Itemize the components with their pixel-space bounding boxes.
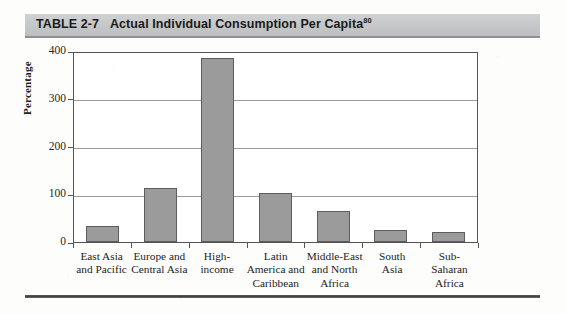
x-axis-label: LatinAmerica andCaribbean <box>246 250 306 296</box>
x-axis-label-line: Middle-East <box>307 250 363 263</box>
x-axis-label-line: and North <box>307 263 363 276</box>
table-figure-page: TABLE 2-7 Actual Individual Consumption … <box>0 0 566 314</box>
y-tick-label: 0 <box>34 235 66 247</box>
plot-area <box>73 52 478 243</box>
x-axis-label-line: Africa <box>422 277 477 290</box>
bar <box>374 230 407 242</box>
x-axis-label: SouthAsia <box>364 250 421 296</box>
x-tick <box>304 243 305 248</box>
x-tick <box>362 243 363 248</box>
bar <box>86 226 119 242</box>
y-axis-title: Percentage <box>21 25 33 115</box>
x-axis-label-line: income <box>189 263 244 276</box>
x-axis-label-line: and Pacific <box>74 263 129 276</box>
bar <box>144 188 177 242</box>
bar <box>432 232 465 242</box>
x-axis-ticks <box>73 243 478 249</box>
bar <box>259 193 292 242</box>
bar-slot <box>132 53 190 242</box>
x-axis-label-line: America and <box>247 263 305 276</box>
x-tick <box>73 243 74 248</box>
x-axis-label-line: Europe and <box>131 250 187 263</box>
bar-series <box>74 53 477 242</box>
x-axis-label-line: Sub- <box>422 250 477 263</box>
x-axis-label-line: Latin <box>247 250 305 263</box>
y-tick-label: 400 <box>34 44 66 56</box>
x-axis-label-line: Africa <box>307 277 363 290</box>
y-tick-label: 200 <box>34 140 66 152</box>
bar-slot <box>247 53 305 242</box>
bar-slot <box>362 53 420 242</box>
bar-chart: Percentage 0100200300400 East Asiaand Pa… <box>0 0 566 314</box>
bar-slot <box>419 53 477 242</box>
x-axis-label: High-income <box>188 250 245 296</box>
x-axis-label-line: East Asia <box>74 250 129 263</box>
x-axis-label-line: Asia <box>365 263 420 276</box>
x-axis-label: East Asiaand Pacific <box>73 250 130 296</box>
x-axis-label: Sub-SaharanAfrica <box>421 250 478 296</box>
x-axis-label-line: High- <box>189 250 244 263</box>
x-axis-label-line: South <box>365 250 420 263</box>
x-axis-label: Middle-Eastand NorthAfrica <box>306 250 364 296</box>
y-tick-label: 100 <box>34 187 66 199</box>
bar <box>201 58 234 242</box>
x-axis-label: Europe andCentral Asia <box>130 250 188 296</box>
x-tick <box>189 243 190 248</box>
bar <box>317 211 350 242</box>
bar-slot <box>74 53 132 242</box>
x-tick <box>420 243 421 248</box>
y-tick-label: 300 <box>34 92 66 104</box>
x-tick <box>131 243 132 248</box>
x-axis-labels: East Asiaand PacificEurope andCentral As… <box>73 250 478 296</box>
x-axis-label-line: Saharan <box>422 263 477 276</box>
bottom-rule <box>25 295 540 298</box>
x-tick <box>247 243 248 248</box>
x-axis-label-line: Caribbean <box>247 277 305 290</box>
bar-slot <box>304 53 362 242</box>
x-tick <box>478 243 479 248</box>
bar-slot <box>189 53 247 242</box>
x-axis-label-line: Central Asia <box>131 263 187 276</box>
